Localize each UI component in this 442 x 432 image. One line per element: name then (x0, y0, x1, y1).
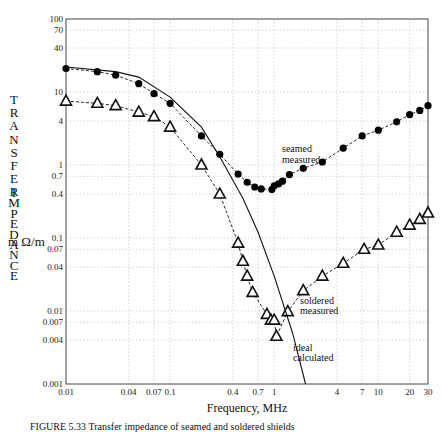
data-series (61, 65, 434, 384)
figure-caption: FIGURE 5.33 Transfer impedance of seamed… (30, 421, 295, 432)
y-tick-label: 4 (59, 116, 64, 126)
data-point-dot (251, 183, 258, 190)
seamed-label-line2: measured (282, 154, 320, 165)
data-point-dot (135, 80, 142, 87)
x-tick-label: 0.1 (164, 387, 175, 397)
data-point-dot (94, 68, 101, 75)
ideal-label-line2: calculated (293, 352, 334, 363)
data-point-triangle (110, 100, 121, 110)
series-line (66, 67, 306, 384)
x-tick-label: 10 (374, 387, 384, 397)
data-point-dot (167, 100, 174, 107)
x-tick-label: 1 (272, 387, 277, 397)
series-line (66, 68, 428, 189)
y-axis-title: TRANSFERIMPEDANCE (8, 92, 20, 283)
data-point-triangle (247, 286, 258, 296)
data-point-dot (235, 171, 242, 178)
data-point-dot (375, 127, 382, 134)
tick-labels: 0.010.040.070.10.40.71471020300.0010.004… (43, 14, 433, 397)
data-point-dot (198, 132, 205, 139)
grid-lines (66, 19, 428, 384)
data-point-dot (406, 111, 413, 118)
data-point-dot (359, 132, 366, 139)
data-point-dot (300, 165, 307, 172)
data-point-dot (424, 102, 431, 109)
x-tick-label: 0.04 (121, 387, 137, 397)
axes (66, 19, 428, 384)
x-axis-title: Frequency, MHz (207, 401, 288, 415)
x-tick-label: 0.4 (227, 387, 239, 397)
data-point-triangle (391, 226, 402, 236)
data-point-triangle (298, 285, 309, 295)
y-tick-label: 10 (54, 87, 64, 97)
data-point-triangle (133, 106, 144, 116)
x-tick-label: 4 (335, 387, 340, 397)
data-point-dot (258, 185, 265, 192)
series-ideal-calculated (66, 67, 306, 384)
data-point-triangle (237, 255, 248, 265)
x-tick-label: 30 (424, 387, 434, 397)
data-point-dot (62, 65, 69, 72)
y-tick-label: 0.7 (52, 171, 64, 181)
x-tick-label: 20 (405, 387, 415, 397)
data-point-triangle (373, 239, 384, 249)
x-tick-label: 0.07 (146, 387, 162, 397)
y-axis-unit: m Ω/m (8, 234, 45, 249)
y-tick-label: 40 (54, 43, 64, 53)
y-tick-label: 100 (50, 14, 64, 24)
x-tick-label: 7 (360, 387, 365, 397)
y-tick-label: 0.04 (47, 262, 63, 272)
y-tick-label: 70 (54, 25, 64, 35)
y-tick-label: 0.01 (47, 306, 63, 316)
data-point-triangle (233, 237, 244, 247)
data-point-dot (286, 171, 293, 178)
y-title-letter: E (10, 268, 18, 283)
plot-frame (66, 19, 428, 384)
y-tick-label: 0.007 (43, 317, 64, 327)
seamed-label-line1: seamed (282, 143, 312, 154)
y-tick-label: 0.004 (43, 335, 64, 345)
data-point-triangle (423, 207, 434, 217)
data-point-dot (279, 178, 286, 185)
data-point-triangle (271, 330, 282, 340)
soldered-label-line2: measured (300, 305, 338, 316)
data-point-dot (150, 90, 157, 97)
data-point-triangle (338, 257, 349, 267)
y-tick-label: 0.4 (52, 189, 64, 199)
series-seamed-measured (62, 65, 431, 193)
data-point-dot (244, 179, 251, 186)
data-point-dot (393, 118, 400, 125)
data-point-triangle (317, 270, 328, 280)
data-point-dot (340, 145, 347, 152)
y-tick-label: 0.1 (52, 233, 63, 243)
data-point-dot (416, 107, 423, 114)
series-line (66, 101, 428, 336)
y-tick-label: 1 (59, 160, 64, 170)
data-point-triangle (359, 243, 370, 253)
y-tick-label: 0.001 (43, 379, 63, 389)
data-point-triangle (92, 97, 103, 107)
x-tick-label: 0.7 (252, 387, 264, 397)
data-point-triangle (165, 121, 176, 131)
data-point-triangle (242, 270, 253, 280)
data-point-triangle (214, 188, 225, 198)
y-tick-label: 0.07 (47, 244, 63, 254)
